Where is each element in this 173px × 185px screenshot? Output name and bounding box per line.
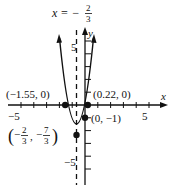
root-right-label: (0.22, 0) xyxy=(93,88,131,101)
curve-arrow-left-icon xyxy=(57,34,63,43)
svg-text:2: 2 xyxy=(22,125,27,135)
y-axis-label: y xyxy=(87,27,93,39)
svg-text:): ) xyxy=(52,126,58,147)
x-tick-label-neg5: −5 xyxy=(8,110,20,122)
symmetry-label-den: 3 xyxy=(86,14,91,24)
y-intercept-label: (0, −1) xyxy=(91,112,121,125)
point-root-right xyxy=(85,102,91,108)
svg-text:,: , xyxy=(30,130,33,142)
root-left-label: (−1.55, 0) xyxy=(6,88,50,101)
point-root-left xyxy=(62,102,68,108)
x-tick-label-5: 5 xyxy=(142,110,148,122)
svg-text:−: − xyxy=(14,128,20,140)
svg-text:7: 7 xyxy=(44,125,49,135)
y-tick-label-neg5: −5 xyxy=(64,156,76,168)
vertex-label: ( − 2 3 , − 7 3 ) xyxy=(8,125,58,147)
svg-text:−: − xyxy=(36,128,42,140)
y-tick-label-5: 5 xyxy=(71,41,77,53)
symmetry-label: x = − xyxy=(51,6,80,20)
point-vertex xyxy=(73,132,79,138)
x-axis-label: x xyxy=(160,90,166,102)
symmetry-label-num: 2 xyxy=(86,3,91,13)
svg-text:3: 3 xyxy=(44,136,49,146)
x-axis-arrow-icon xyxy=(160,102,168,108)
parabola-graph: x = − 2 3 y x 5 −5 −5 5 (−1.55, 0) (0.22… xyxy=(0,0,173,185)
point-y-intercept xyxy=(82,115,88,121)
svg-text:3: 3 xyxy=(22,136,27,146)
